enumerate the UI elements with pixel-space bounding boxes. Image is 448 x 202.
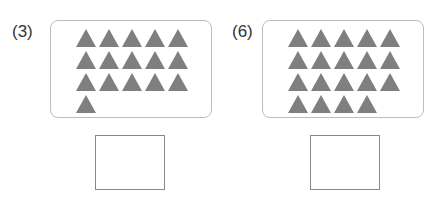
triangle-icon — [380, 29, 400, 47]
triangle-icon — [380, 73, 400, 91]
triangle-panel — [50, 20, 212, 118]
triangle-icon — [357, 73, 377, 91]
triangle-icon — [76, 95, 96, 113]
triangle-icon — [311, 95, 331, 113]
triangle-icon — [357, 29, 377, 47]
triangle-icon — [288, 51, 308, 69]
triangle-icon — [288, 95, 308, 113]
triangle-icon — [334, 51, 354, 69]
triangle-icon — [168, 73, 188, 91]
triangle-icon — [122, 51, 142, 69]
triangle-icon — [76, 73, 96, 91]
triangle-icon — [357, 51, 377, 69]
triangle-icon — [122, 73, 142, 91]
triangle-icon — [311, 29, 331, 47]
triangle-icon — [122, 29, 142, 47]
answer-box[interactable] — [310, 135, 380, 190]
triangle-panel — [262, 20, 424, 118]
triangle-icon — [99, 73, 119, 91]
triangle-icon — [380, 51, 400, 69]
problem-label: (6) — [232, 22, 253, 42]
triangle-icon — [334, 73, 354, 91]
triangle-icon — [145, 73, 165, 91]
triangle-icon — [168, 29, 188, 47]
triangle-icon — [334, 29, 354, 47]
triangle-grid — [288, 29, 413, 117]
triangle-grid — [76, 29, 201, 117]
triangle-icon — [76, 29, 96, 47]
problem-label: (3) — [12, 22, 33, 42]
triangle-icon — [311, 73, 331, 91]
triangle-icon — [99, 51, 119, 69]
triangle-icon — [334, 95, 354, 113]
triangle-icon — [99, 29, 119, 47]
triangle-icon — [76, 51, 96, 69]
answer-box[interactable] — [95, 135, 165, 190]
triangle-icon — [145, 29, 165, 47]
triangle-icon — [357, 95, 377, 113]
triangle-icon — [145, 51, 165, 69]
triangle-icon — [288, 29, 308, 47]
triangle-icon — [288, 73, 308, 91]
triangle-icon — [168, 51, 188, 69]
triangle-icon — [311, 51, 331, 69]
